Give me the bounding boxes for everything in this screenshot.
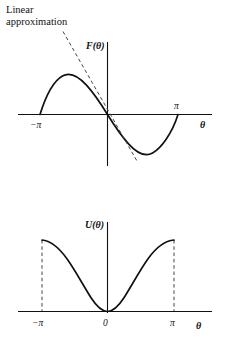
figure-page: Linear approximation F(θ) −π π θ U( bbox=[0, 0, 225, 343]
top-panel-xtick-pi: π bbox=[174, 101, 179, 111]
bottom-panel-xtick-pi: π bbox=[170, 318, 175, 328]
top-panel: Linear approximation F(θ) −π π θ bbox=[6, 4, 212, 166]
two-panel-figure: Linear approximation F(θ) −π π θ U( bbox=[0, 0, 225, 343]
bottom-panel-xtick-zero: 0 bbox=[103, 318, 108, 328]
linear-approximation-label-line1: Linear bbox=[6, 4, 34, 15]
bottom-panel: U(θ) −π 0 π θ bbox=[18, 219, 212, 331]
top-panel-x-axis-label: θ bbox=[200, 119, 206, 130]
top-panel-xtick-minus-pi: −π bbox=[30, 120, 41, 130]
bottom-panel-x-axis-label: θ bbox=[196, 320, 202, 331]
linear-approximation-label-line2: approximation bbox=[6, 16, 68, 27]
bottom-panel-xtick-minus-pi: −π bbox=[32, 318, 43, 328]
bottom-panel-y-axis-label: U(θ) bbox=[85, 219, 104, 231]
top-panel-y-axis-label: F(θ) bbox=[85, 40, 105, 52]
